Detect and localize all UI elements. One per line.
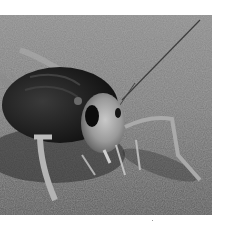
cricket-illustration (0, 15, 212, 215)
cricket-photo (0, 15, 212, 215)
speck (152, 220, 153, 221)
